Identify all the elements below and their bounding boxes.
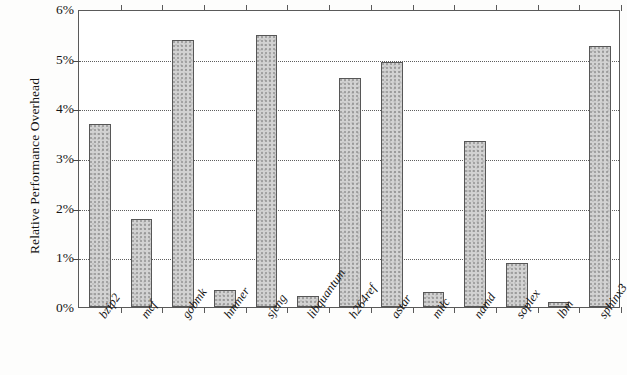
bar-sphinx3 xyxy=(589,46,611,307)
y-tick-mark xyxy=(73,110,79,111)
x-tick-mark-top xyxy=(538,5,539,11)
y-tick-label: 6% xyxy=(34,2,74,18)
x-tick-mark-top xyxy=(121,5,122,11)
y-axis-tick-label-group: 0%1%2%3%4%5%6% xyxy=(34,0,74,375)
x-tick-mark-top xyxy=(579,5,580,11)
gridline xyxy=(79,61,619,62)
plot-area xyxy=(78,10,620,308)
y-tick-mark xyxy=(73,210,79,211)
y-tick-mark xyxy=(73,160,79,161)
x-tick-mark-bottom xyxy=(621,307,622,313)
bar-namd xyxy=(464,141,486,307)
bar-mcf xyxy=(131,219,153,307)
y-tick-label: 5% xyxy=(34,52,74,68)
x-tick-mark-top xyxy=(329,5,330,11)
bar-chart-figure: Relative Performance Overhead 0%1%2%3%4%… xyxy=(0,0,627,375)
x-axis-tick-label-group: bzip2mcfgobmkhmmersjenglibquantumh264ref… xyxy=(78,308,620,375)
x-tick-mark-top xyxy=(162,5,163,11)
y-tick-mark xyxy=(73,61,79,62)
y-tick-mark xyxy=(73,259,79,260)
x-tick-mark-top xyxy=(621,5,622,11)
x-tick-mark-top xyxy=(496,5,497,11)
x-tick-mark-top xyxy=(204,5,205,11)
y-tick-label: 0% xyxy=(34,300,74,316)
bar-gobmk xyxy=(172,40,194,307)
x-tick-mark-top xyxy=(371,5,372,11)
x-tick-mark-top xyxy=(413,5,414,11)
y-tick-label: 2% xyxy=(34,201,74,217)
y-tick-label: 3% xyxy=(34,151,74,167)
bar-astar xyxy=(381,62,403,307)
bar-bzip2 xyxy=(89,124,111,307)
x-tick-mark-top xyxy=(287,5,288,11)
bar-sjeng xyxy=(256,35,278,307)
y-tick-label: 1% xyxy=(34,250,74,266)
y-tick-label: 4% xyxy=(34,101,74,117)
x-tick-mark-top xyxy=(246,5,247,11)
x-tick-mark-top xyxy=(454,5,455,11)
